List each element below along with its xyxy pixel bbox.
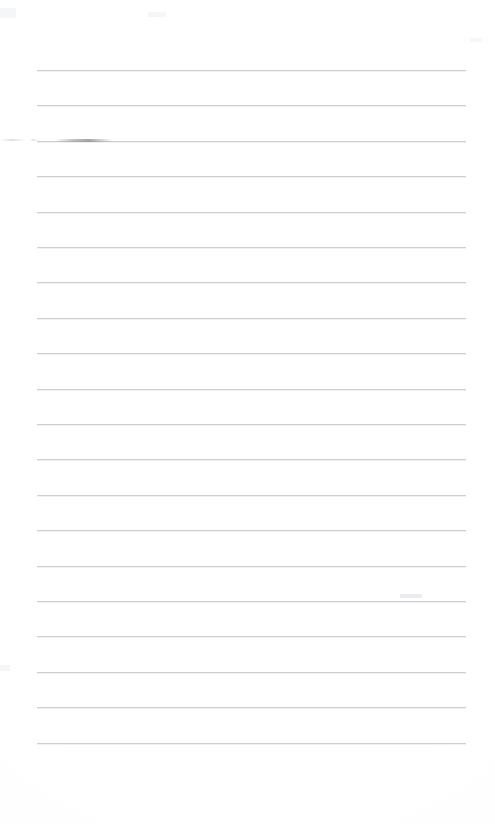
writing-line-16[interactable] (37, 571, 466, 601)
writing-line-4[interactable] (37, 146, 466, 176)
writing-line-12[interactable] (37, 429, 466, 459)
writing-line-9[interactable] (37, 323, 466, 353)
writing-line-2[interactable] (37, 75, 466, 105)
writing-line-8[interactable] (37, 288, 466, 318)
rule-line-4 (37, 176, 466, 177)
rule-line-16 (37, 601, 466, 602)
writing-line-5[interactable] (37, 182, 466, 212)
writing-line-18[interactable] (37, 642, 466, 672)
rule-line-9 (37, 353, 466, 354)
rule-line-13 (37, 495, 466, 496)
rule-line-19 (37, 707, 466, 708)
writing-line-15[interactable] (37, 536, 466, 566)
writing-line-19[interactable] (37, 677, 466, 707)
rule-line-2 (37, 105, 466, 106)
rule-line-17 (37, 636, 466, 637)
rule-line-12 (37, 459, 466, 460)
rule-line-7 (37, 282, 466, 283)
rule-line-6 (37, 247, 466, 248)
writing-line-11[interactable] (37, 394, 466, 424)
writing-line-10[interactable] (37, 359, 466, 389)
writing-line-7[interactable] (37, 252, 466, 282)
writing-line-13[interactable] (37, 465, 466, 495)
rule-line-3 (37, 141, 466, 142)
rule-line-1 (37, 70, 466, 71)
writing-line-1[interactable] (37, 40, 466, 70)
rule-line-14 (37, 530, 466, 531)
writing-line-6[interactable] (37, 217, 466, 247)
lined-paper-page (0, 0, 495, 824)
rule-line-20 (37, 743, 466, 744)
rule-line-10 (37, 389, 466, 390)
rule-line-5 (37, 212, 466, 213)
writing-line-17[interactable] (37, 606, 466, 636)
rule-line-8 (37, 318, 466, 319)
writing-line-20[interactable] (37, 713, 466, 743)
writing-line-3[interactable] (37, 111, 466, 141)
writing-line-14[interactable] (37, 500, 466, 530)
rule-line-18 (37, 672, 466, 673)
rule-line-11 (37, 424, 466, 425)
rule-line-15 (37, 566, 466, 567)
